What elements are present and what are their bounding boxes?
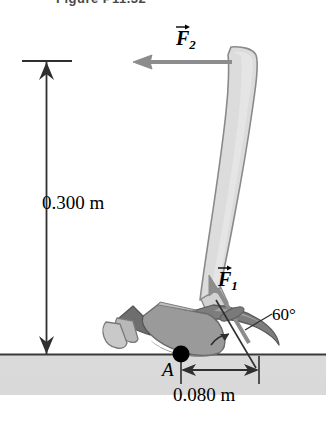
physics-figure: Figure P11.32	[0, 0, 326, 426]
force-f2-arrow	[133, 55, 232, 69]
force-f2-label: F2	[176, 27, 196, 53]
vector-arrow-icon	[176, 22, 190, 30]
width-dimension-label: 0.080 m	[173, 384, 235, 406]
angle-label: 60°	[272, 305, 296, 325]
vector-arrow-icon	[218, 263, 232, 271]
force-f1-label: F1	[218, 268, 238, 294]
force-f2-symbol: F	[176, 27, 189, 49]
pivot-point-dot	[173, 346, 190, 363]
force-f1-subscript: 1	[231, 278, 238, 293]
height-dimension-label: 0.300 m	[42, 192, 104, 214]
force-f1-symbol: F	[218, 268, 231, 290]
hammer-illustration	[103, 47, 279, 357]
force-f2-subscript: 2	[189, 37, 196, 52]
pivot-point-label: A	[162, 359, 174, 381]
